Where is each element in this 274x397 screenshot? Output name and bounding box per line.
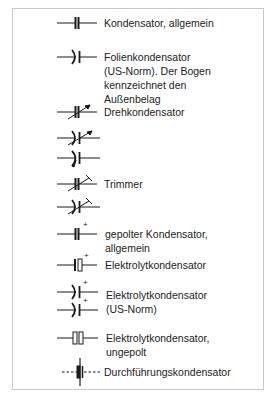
label-polarized-capacitor-1: gepolter Kondensator, bbox=[105, 227, 208, 241]
variable-capacitor-us-a-icon bbox=[57, 131, 100, 145]
plus-sign: + bbox=[83, 220, 88, 229]
label-film-capacitor-2: (US-Norm). Der Bogen bbox=[104, 64, 211, 78]
label-feedthrough-capacitor: Durchführungskondensator bbox=[104, 365, 231, 379]
plus-sign: + bbox=[83, 296, 88, 305]
capacitor-general-icon bbox=[57, 17, 97, 29]
label-variable-capacitor: Drehkondensator bbox=[104, 105, 185, 119]
trimmer-capacitor-icon bbox=[57, 175, 97, 191]
variable-capacitor-icon bbox=[57, 105, 97, 119]
label-electrolytic-us-2: (US-Norm) bbox=[106, 302, 157, 316]
label-electrolytic-unpolarized-2: ungepolt bbox=[106, 345, 146, 359]
variable-capacitor-us-b-icon bbox=[57, 151, 100, 167]
film-capacitor-us-icon bbox=[57, 50, 97, 64]
label-film-capacitor-1: Folienkondensator bbox=[104, 50, 190, 64]
label-electrolytic-us-1: Elektrolytkondensator bbox=[106, 288, 207, 302]
feedthrough-capacitor-icon bbox=[62, 358, 100, 386]
label-electrolytic-unpolarized-1: Elektrolytkondensator, bbox=[106, 331, 209, 345]
label-electrolytic-capacitor: Elektrolytkondensator bbox=[105, 258, 206, 272]
label-polarized-capacitor-2: allgemein bbox=[105, 241, 150, 255]
trimmer-capacitor-us-icon bbox=[57, 198, 100, 214]
electrolytic-capacitor-icon bbox=[57, 259, 97, 271]
electrolytic-capacitor-unpolarized-icon bbox=[57, 332, 98, 344]
polarized-capacitor-icon bbox=[57, 228, 97, 240]
label-film-capacitor-3: kennzeichnet den bbox=[104, 78, 186, 92]
label-capacitor-general: Kondensator, allgemein bbox=[104, 16, 214, 30]
plus-sign: + bbox=[83, 278, 88, 287]
plus-sign: + bbox=[84, 251, 89, 260]
label-film-capacitor-4: Außenbelag bbox=[104, 92, 161, 106]
electrolytic-capacitor-us-icon bbox=[57, 285, 98, 317]
label-trimmer: Trimmer bbox=[104, 177, 143, 191]
